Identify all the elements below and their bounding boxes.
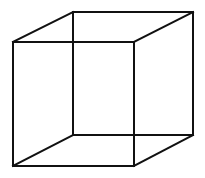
cube-edge-front-top-right--back-top-right [134,12,193,42]
cube-edge-front-bottom-right--back-bottom-right [134,135,193,166]
cube-edge-front-top-left--back-top-left [13,12,73,42]
cube-edges [13,12,193,166]
cube-edge-front-bottom-left--back-bottom-left [13,135,73,166]
necker-cube-diagram [0,0,205,178]
